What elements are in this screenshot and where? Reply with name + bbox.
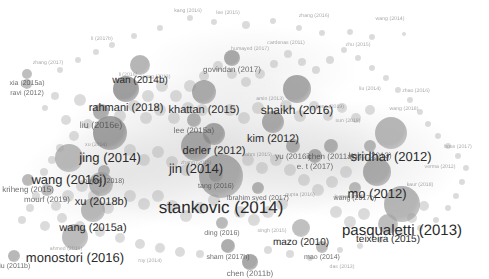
network-node-label-faint: lehrs (2015) (244, 153, 272, 158)
network-node-label-faint: sun (2019) (336, 119, 361, 124)
network-node-label: yu (2016i) (275, 153, 311, 161)
network-node-label: liu (2011b) (0, 262, 30, 269)
label-layer: kang (2016)lee (2015)zhang (2016)wang (2… (0, 0, 489, 279)
network-node-label: xu (2018b) (75, 197, 128, 208)
network-node-label: rahmani (2018) (89, 103, 164, 114)
network-node-label: tang (2016) (198, 182, 234, 189)
network-node-label-faint: humayed (2017) (231, 47, 269, 52)
network-node-label: mazo (2010) (273, 238, 329, 248)
network-node-label: khattan (2015) (169, 105, 240, 116)
network-node-label-faint: verma (2012) (425, 165, 456, 170)
network-node-label-faint: wang (2018) (390, 107, 419, 112)
network-node-label: kriheng (2015) (2, 186, 54, 194)
network-node-label-faint: wang (2014) (376, 17, 405, 22)
network-node-label: teixeira (2015) (356, 235, 420, 245)
network-node-label: boyes (2018) (84, 177, 125, 184)
network-node-label: e. t (2017) (297, 163, 333, 171)
network-node-label: monostori (2016) (26, 251, 124, 264)
network-node-label: jing (2014) (79, 151, 140, 164)
network-node-label: ravi (2012) (10, 89, 43, 96)
network-node-label-faint: lee (2015) (216, 11, 239, 16)
network-node-label: chen (2011a) (308, 153, 355, 161)
network-node-label: wang (2015a) (59, 223, 126, 234)
network-node-label-faint: liu (2014) (359, 87, 381, 92)
network-node-label: ding (2016) (204, 229, 239, 236)
network-node-label-faint: gupta (2016) (285, 193, 314, 198)
network-node-label: derler (2012) (183, 146, 246, 157)
network-node-label-faint: zhang (2016) (299, 14, 330, 19)
network-node-label: xia (2015a) (9, 79, 44, 86)
network-node-label-faint: zhang (2017) (33, 61, 64, 66)
network-node-label-faint: kang (2016) (174, 9, 202, 14)
network-node-label: mourf (2019) (24, 196, 70, 204)
network-node-label: wan (2014b) (112, 76, 168, 86)
network-node-label-faint: roy (2014) (138, 259, 162, 264)
network-node-label: mao (2014) (304, 253, 340, 260)
network-node-label-faint: bose (2017) (444, 145, 472, 150)
network-node-label-faint: das (2013) (330, 265, 355, 270)
network-node-label: jin (2014) (169, 162, 223, 175)
network-node-label: kim (2012) (247, 134, 299, 145)
network-node-label: chen (2011b) (227, 270, 274, 278)
network-node-label: hahn (2013) (348, 152, 391, 160)
network-node-label-faint: xu (2014) (85, 143, 107, 148)
network-node-label: liu (2016e) (80, 120, 123, 129)
network-node-label-faint: singh (2015) (258, 229, 287, 234)
network-node-label: lee (2015a) (174, 127, 214, 135)
network-node-label-faint: cardenas (2011) (267, 41, 304, 46)
network-node-label-faint: zhao (2016) (402, 89, 430, 94)
network-node-label: govindan (2017) (203, 66, 261, 74)
network-node-label-faint: li (2017b) (91, 37, 113, 42)
network-node-label-faint: zhu (2015) (346, 43, 371, 48)
network-node-label-faint: kaur (2018) (407, 183, 434, 188)
network-map-canvas[interactable]: kang (2016)lee (2015)zhang (2016)wang (2… (0, 0, 489, 279)
network-node-label: sham (2017h) (206, 253, 249, 260)
network-node-label: ibrahim syed (2017) (227, 194, 289, 201)
network-node-label: wang (2017b) (334, 194, 377, 201)
network-node-label: stankovic (2014) (159, 199, 284, 216)
network-node-label: shaikh (2016) (261, 104, 334, 116)
